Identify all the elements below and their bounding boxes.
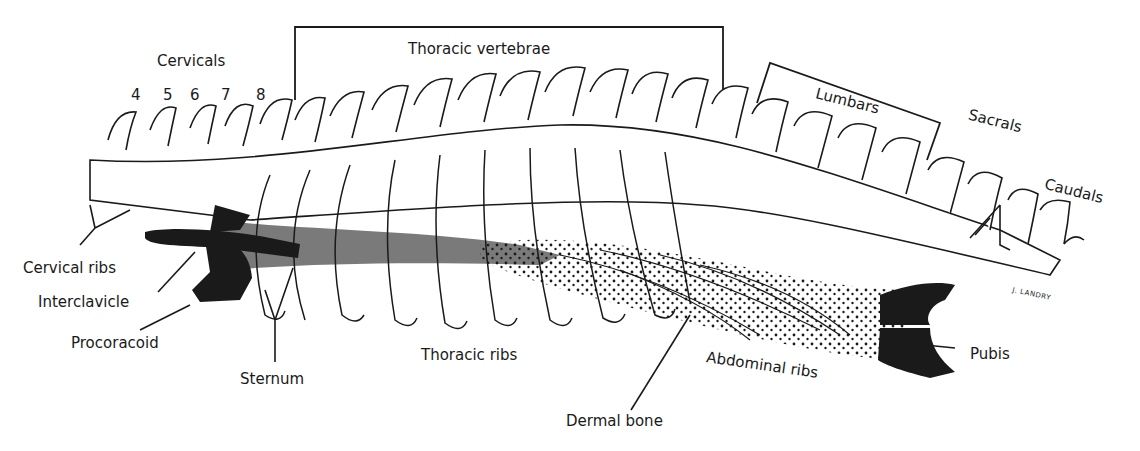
label-cervicals: Cervicals bbox=[157, 52, 225, 70]
cervical-number-7: 7 bbox=[221, 86, 231, 104]
cervical-number-8: 8 bbox=[256, 86, 266, 104]
cervical-number-4: 4 bbox=[131, 86, 141, 104]
label-pubis: Pubis bbox=[970, 345, 1010, 363]
label-cervical-ribs: Cervical ribs bbox=[23, 259, 116, 277]
label-thoracic-vertebrae: Thoracic vertebrae bbox=[408, 40, 550, 58]
label-procoracoid: Procoracoid bbox=[71, 334, 159, 352]
label-interclavicle: Interclavicle bbox=[38, 293, 129, 311]
label-dermal-bone: Dermal bone bbox=[566, 412, 663, 430]
cervical-number-6: 6 bbox=[190, 86, 200, 104]
dermal-bone bbox=[480, 240, 905, 360]
label-thoracic-ribs: Thoracic ribs bbox=[421, 346, 517, 364]
pubis bbox=[878, 283, 955, 378]
label-sternum: Sternum bbox=[240, 370, 304, 388]
cervical-number-5: 5 bbox=[163, 86, 173, 104]
